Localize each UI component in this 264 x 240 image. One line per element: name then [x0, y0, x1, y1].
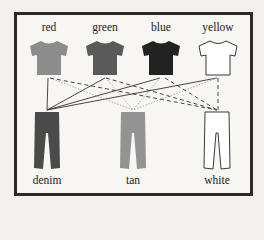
pants-label-denim: denim [17, 174, 77, 186]
pants-white-icon [204, 112, 230, 169]
shirt-yellow-icon [199, 41, 237, 75]
shirt-green-icon [86, 41, 124, 75]
pants-label-white: white [187, 174, 247, 186]
pants-tan-icon [120, 112, 146, 169]
pants-denim-icon [34, 112, 60, 169]
shirt-blue-icon [142, 41, 180, 75]
shirt-red-icon [30, 41, 68, 75]
pants-label-tan: tan [103, 174, 163, 186]
